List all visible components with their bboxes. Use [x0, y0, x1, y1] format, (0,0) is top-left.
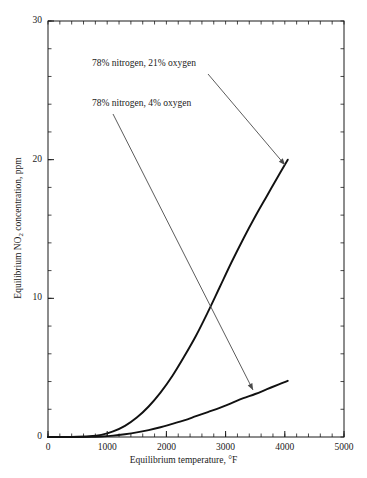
no2-equilibrium-chart [0, 0, 367, 478]
y-tick-label: 0 [12, 431, 42, 441]
y-tick-label: 10 [12, 292, 42, 302]
y-axis-title-suffix: concentration, ppm [13, 157, 23, 233]
y-tick-label: 20 [12, 154, 42, 164]
x-tick-label: 1000 [87, 442, 127, 452]
x-tick-label: 2000 [146, 442, 186, 452]
x-tick-label: 4000 [265, 442, 305, 452]
series-annotation-label: 78% nitrogen, 4% oxygen [92, 98, 191, 108]
y-axis-title-prefix: Equilibrium NO [13, 237, 23, 299]
x-tick-label: 5000 [324, 442, 364, 452]
x-tick-label: 0 [28, 442, 68, 452]
x-tick-label: 3000 [206, 442, 246, 452]
x-axis-title: Equilibrium temperature, °F [0, 455, 367, 465]
chart-background [0, 0, 367, 478]
y-axis-title-subscript: 2 [17, 233, 25, 237]
y-tick-label: 30 [12, 15, 42, 25]
series-annotation-label: 78% nitrogen, 21% oxygen [92, 58, 196, 68]
